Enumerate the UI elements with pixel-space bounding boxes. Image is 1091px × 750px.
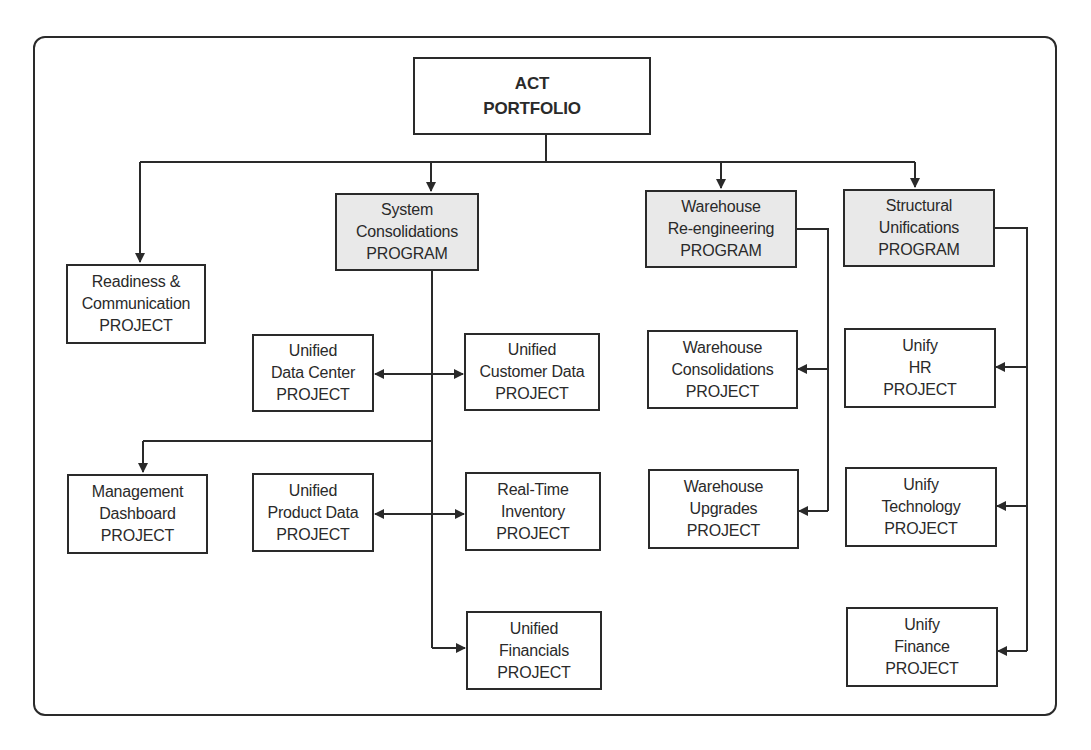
node-label: Warehouse — [681, 196, 760, 218]
warehouse-consolidations-project: Warehouse Consolidations PROJECT — [647, 330, 798, 409]
node-label: PROJECT — [99, 315, 172, 337]
unified-data-center-project: Unified Data Center PROJECT — [252, 334, 374, 412]
node-label: Management — [92, 481, 183, 503]
node-label: PROJECT — [276, 524, 349, 546]
act-portfolio-node: ACT PORTFOLIO — [413, 57, 651, 135]
node-label: Unify — [903, 474, 938, 496]
unified-product-data-project: Unified Product Data PROJECT — [252, 473, 374, 552]
management-dashboard-project: Management Dashboard PROJECT — [67, 474, 208, 554]
warehouse-upgrades-project: Warehouse Upgrades PROJECT — [648, 469, 799, 549]
node-label: PROJECT — [884, 518, 957, 540]
node-label: Customer Data — [480, 361, 585, 383]
node-label: Unify — [904, 614, 939, 636]
node-label: PROJECT — [885, 658, 958, 680]
node-label: Consolidations — [356, 221, 458, 243]
node-label: Unified — [289, 480, 337, 502]
node-label: Re-engineering — [668, 218, 775, 240]
node-label: PROJECT — [495, 383, 568, 405]
node-label: Finance — [894, 636, 950, 658]
node-label: PROGRAM — [366, 243, 447, 265]
node-label: HR — [909, 357, 932, 379]
node-label: Readiness & — [92, 271, 181, 293]
unify-technology-project: Unify Technology PROJECT — [845, 467, 997, 547]
readiness-communication-project: Readiness & Communication PROJECT — [66, 264, 206, 344]
node-label: Unified — [508, 339, 556, 361]
node-label: Technology — [882, 496, 961, 518]
warehouse-reengineering-program: Warehouse Re-engineering PROGRAM — [645, 190, 797, 268]
node-label: PROGRAM — [878, 239, 959, 261]
node-label: PROJECT — [686, 381, 759, 403]
node-label: PROJECT — [883, 379, 956, 401]
node-label: PROJECT — [101, 525, 174, 547]
node-label: Unified — [510, 618, 558, 640]
node-label: Structural — [886, 195, 952, 217]
unified-customer-data-project: Unified Customer Data PROJECT — [464, 333, 600, 411]
node-label: Inventory — [501, 501, 565, 523]
node-label: Data Center — [271, 362, 355, 384]
system-consolidations-program: System Consolidations PROGRAM — [335, 193, 479, 271]
node-label: PROJECT — [497, 662, 570, 684]
real-time-inventory-project: Real-Time Inventory PROJECT — [465, 472, 601, 551]
node-label: PROJECT — [496, 523, 569, 545]
node-label: Financials — [499, 640, 569, 662]
node-label: Real-Time — [497, 479, 568, 501]
unify-finance-project: Unify Finance PROJECT — [846, 607, 998, 687]
node-label: Warehouse — [683, 337, 762, 359]
node-label: System — [381, 199, 433, 221]
node-label: Unified — [289, 340, 337, 362]
node-label: Product Data — [268, 502, 359, 524]
node-label: Consolidations — [671, 359, 773, 381]
structural-unifications-program: Structural Unifications PROGRAM — [843, 189, 995, 267]
node-label: Warehouse — [684, 476, 763, 498]
unified-financials-project: Unified Financials PROJECT — [466, 611, 602, 690]
node-label: Communication — [82, 293, 191, 315]
node-label: Dashboard — [99, 503, 175, 525]
node-label: Unify — [902, 335, 937, 357]
node-label: PORTFOLIO — [483, 96, 580, 121]
node-label: ACT — [515, 71, 549, 96]
node-label: PROJECT — [687, 520, 760, 542]
node-label: PROJECT — [276, 384, 349, 406]
node-label: PROGRAM — [680, 240, 761, 262]
node-label: Upgrades — [690, 498, 758, 520]
unify-hr-project: Unify HR PROJECT — [844, 328, 996, 408]
node-label: Unifications — [879, 217, 959, 239]
